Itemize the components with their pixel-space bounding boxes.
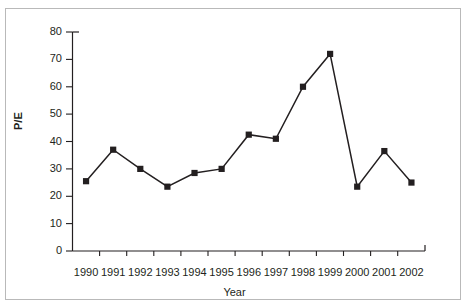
data-point-marker <box>110 147 116 153</box>
y-tick-label: 30 <box>36 162 62 174</box>
y-tick-label: 0 <box>36 244 62 256</box>
y-axis-title: P/E <box>12 112 24 130</box>
y-tick-label: 60 <box>36 80 62 92</box>
x-axis-title: Year <box>0 286 469 298</box>
data-point-marker <box>327 51 333 57</box>
data-point-marker <box>137 166 143 172</box>
chart-plot-svg <box>0 0 469 307</box>
data-point-marker <box>300 84 306 90</box>
y-tick-label: 40 <box>36 135 62 147</box>
x-axis-ticks <box>100 251 398 256</box>
data-point-markers <box>83 51 415 190</box>
y-tick-label: 70 <box>36 52 62 64</box>
y-tick-label: 80 <box>36 25 62 37</box>
data-point-marker <box>164 184 170 190</box>
line-chart: P/E Year 80706050403020100 1990199119921… <box>0 0 469 307</box>
data-point-marker <box>191 170 197 176</box>
x-axis <box>73 245 426 251</box>
data-point-marker <box>273 136 279 142</box>
y-tick-label: 10 <box>36 217 62 229</box>
y-tick-label: 20 <box>36 189 62 201</box>
data-point-marker <box>408 179 414 185</box>
data-point-marker <box>354 184 360 190</box>
y-axis-ticks <box>66 32 73 251</box>
y-axis <box>73 32 80 251</box>
data-point-marker <box>219 166 225 172</box>
data-point-marker <box>381 148 387 154</box>
x-tick-label: 2002 <box>395 266 427 278</box>
data-series-line <box>86 54 411 187</box>
data-point-marker <box>83 178 89 184</box>
y-tick-label: 50 <box>36 107 62 119</box>
data-point-marker <box>246 132 252 138</box>
